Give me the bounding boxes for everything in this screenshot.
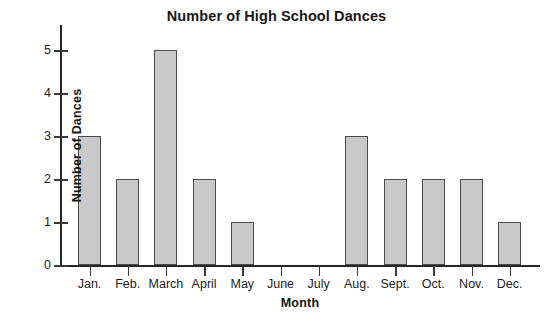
x-tick-mark bbox=[204, 266, 206, 276]
bar bbox=[345, 136, 368, 265]
x-tick-label: June bbox=[267, 277, 294, 291]
y-tick-label: 0 bbox=[44, 258, 51, 272]
x-tick-mark bbox=[433, 266, 435, 276]
y-tick-label: 5 bbox=[44, 43, 51, 57]
bar bbox=[384, 179, 407, 265]
x-tick-mark bbox=[357, 266, 359, 276]
x-tick-label: Jan. bbox=[78, 277, 102, 291]
bar bbox=[116, 179, 139, 265]
x-tick-mark bbox=[128, 266, 130, 276]
x-tick-label: March bbox=[149, 277, 184, 291]
bar bbox=[231, 222, 254, 265]
x-tick-label: Oct. bbox=[422, 277, 445, 291]
y-axis-line bbox=[60, 25, 62, 266]
x-tick-label: Feb. bbox=[115, 277, 140, 291]
x-tick-label: Sept. bbox=[381, 277, 410, 291]
y-tick-mark bbox=[54, 265, 68, 267]
plot-area: 012345 Jan.Feb.MarchAprilMayJuneJulyAug.… bbox=[60, 25, 540, 266]
x-tick-mark bbox=[242, 266, 244, 276]
y-axis-title: Number of Dances bbox=[67, 25, 87, 266]
x-tick-mark bbox=[166, 266, 168, 276]
y-tick-label: 2 bbox=[44, 172, 51, 186]
x-tick-label: April bbox=[192, 277, 217, 291]
x-tick-label: Dec. bbox=[497, 277, 523, 291]
bar bbox=[193, 179, 216, 265]
x-tick-mark bbox=[472, 266, 474, 276]
bar bbox=[460, 179, 483, 265]
bar-chart: Number of High School Dances 012345 Jan.… bbox=[0, 0, 553, 321]
x-tick-label: July bbox=[308, 277, 330, 291]
x-tick-label: Nov. bbox=[459, 277, 484, 291]
x-tick-mark bbox=[90, 266, 92, 276]
x-tick-label: Aug. bbox=[344, 277, 370, 291]
y-tick-mark bbox=[54, 50, 68, 52]
x-tick-mark bbox=[395, 266, 397, 276]
x-tick-mark bbox=[281, 266, 283, 276]
bar bbox=[498, 222, 521, 265]
x-tick-mark bbox=[319, 266, 321, 276]
bar bbox=[422, 179, 445, 265]
x-tick-mark bbox=[510, 266, 512, 276]
x-axis-title: Month bbox=[60, 296, 540, 310]
bar bbox=[154, 50, 177, 265]
x-tick-label: May bbox=[230, 277, 254, 291]
y-tick-mark bbox=[54, 93, 68, 95]
y-tick-mark bbox=[54, 136, 68, 138]
x-axis-line bbox=[60, 265, 540, 267]
y-tick-mark bbox=[54, 222, 68, 224]
y-tick-mark bbox=[54, 179, 68, 181]
chart-title: Number of High School Dances bbox=[0, 8, 553, 24]
y-tick-label: 4 bbox=[44, 86, 51, 100]
y-tick-label: 3 bbox=[44, 129, 51, 143]
y-tick-label: 1 bbox=[44, 215, 51, 229]
